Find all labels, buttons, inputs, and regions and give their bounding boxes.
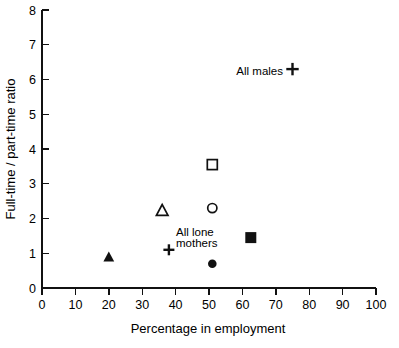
y-tick-label: 8 bbox=[29, 4, 36, 18]
y-axis-title: Full-time / part-time ratio bbox=[3, 79, 18, 220]
data-point-open-square bbox=[207, 160, 217, 170]
chart-container: 0 1 2 3 4 5 6 7 8 0 10 20 bbox=[0, 0, 399, 348]
data-point-plus-all-males bbox=[286, 63, 298, 75]
y-axis-ticks bbox=[42, 10, 49, 288]
data-point-plus-lone-mothers bbox=[163, 244, 174, 255]
x-tick-label: 10 bbox=[68, 298, 82, 312]
data-point-filled-triangle bbox=[103, 252, 114, 262]
data-point-open-circle bbox=[208, 204, 217, 213]
x-tick-label: 60 bbox=[235, 298, 249, 312]
x-tick-label: 30 bbox=[135, 298, 149, 312]
all-lone-mothers-annotation-line2: mothers bbox=[176, 237, 218, 249]
x-tick-label: 70 bbox=[269, 298, 283, 312]
x-axis-ticks bbox=[42, 288, 376, 295]
y-tick-label: 1 bbox=[29, 247, 36, 261]
x-axis-title: Percentage in employment bbox=[131, 321, 286, 336]
y-tick-label: 2 bbox=[29, 212, 36, 226]
x-tick-label: 50 bbox=[202, 298, 216, 312]
x-tick-label: 40 bbox=[169, 298, 183, 312]
y-tick-label: 4 bbox=[29, 143, 36, 157]
x-tick-label: 90 bbox=[336, 298, 350, 312]
y-tick-label: 6 bbox=[29, 73, 36, 87]
x-tick-label: 20 bbox=[102, 298, 116, 312]
x-axis-tick-labels: 0 10 20 30 40 50 60 70 80 90 100 bbox=[39, 298, 387, 312]
y-axis-tick-labels: 0 1 2 3 4 5 6 7 8 bbox=[29, 4, 36, 296]
y-tick-label: 3 bbox=[29, 177, 36, 191]
x-tick-label: 100 bbox=[366, 298, 387, 312]
scatter-plot: 0 1 2 3 4 5 6 7 8 0 10 20 bbox=[0, 0, 399, 348]
all-males-annotation: All males bbox=[236, 65, 283, 77]
y-tick-label: 7 bbox=[29, 38, 36, 52]
data-point-open-triangle bbox=[156, 205, 168, 216]
x-tick-label: 0 bbox=[39, 298, 46, 312]
x-tick-label: 80 bbox=[302, 298, 316, 312]
y-tick-label: 0 bbox=[29, 282, 36, 296]
data-point-filled-square bbox=[245, 232, 256, 243]
data-point-filled-circle bbox=[208, 259, 217, 268]
y-tick-label: 5 bbox=[29, 108, 36, 122]
